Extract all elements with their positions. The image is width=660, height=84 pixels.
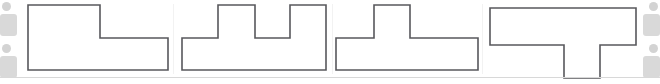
shape-2-polygon[interactable] (182, 5, 326, 70)
shape-4-svg (486, 0, 642, 82)
shape-3-svg (334, 0, 484, 80)
shape-2-svg (178, 0, 332, 80)
left-rail-block-top (0, 14, 17, 36)
left-rail (0, 0, 22, 84)
shape-panel-1 (24, 0, 174, 80)
left-rail-dot-bottom (2, 44, 11, 53)
panel-divider-2 (332, 4, 333, 74)
left-rail-block-bottom (0, 56, 17, 78)
right-rail-block-top (643, 14, 660, 36)
right-rail-block-bottom (643, 56, 660, 78)
bottom-separator-rule (0, 77, 660, 78)
shape-1-polygon[interactable] (28, 5, 168, 70)
right-rail-dot-bottom (649, 44, 658, 53)
shape-4-polygon[interactable] (490, 8, 636, 78)
shape-panel-4 (486, 0, 642, 80)
shape-figure-canvas (0, 0, 660, 84)
left-rail-dot-top (2, 2, 11, 11)
shape-1-svg (24, 0, 174, 80)
shape-panel-2 (178, 0, 332, 80)
right-rail-dot-top (649, 2, 658, 11)
shape-3-polygon[interactable] (336, 5, 478, 70)
shape-panel-3 (334, 0, 484, 80)
